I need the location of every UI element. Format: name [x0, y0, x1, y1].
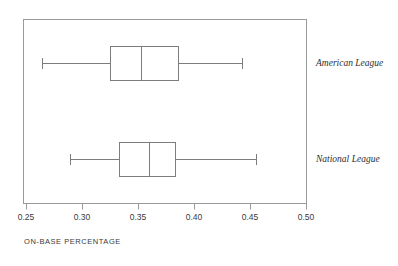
tick-label-1: 0.30 [74, 212, 91, 222]
boxplot-national-league [71, 143, 257, 177]
boxplot-chart: 0.25 0.30 0.35 0.40 0.45 0.50 ON-BASE PE… [0, 0, 398, 266]
category-label-american-league: American League [315, 58, 383, 68]
chart-canvas: 0.25 0.30 0.35 0.40 0.45 0.50 ON-BASE PE… [0, 0, 398, 266]
box-iqr [111, 47, 179, 81]
x-axis-tick-labels: 0.25 0.30 0.35 0.40 0.45 0.50 [18, 212, 315, 222]
tick-label-2: 0.35 [130, 212, 147, 222]
tick-label-0: 0.25 [18, 212, 35, 222]
x-axis-ticks [27, 204, 307, 210]
box-iqr [120, 143, 176, 177]
x-axis-title: ON-BASE PERCENTAGE [24, 237, 121, 246]
tick-label-3: 0.40 [186, 212, 203, 222]
boxplot-american-league [43, 47, 243, 81]
tick-label-4: 0.45 [242, 212, 259, 222]
category-label-national-league: National League [315, 154, 380, 164]
tick-label-5: 0.50 [298, 212, 315, 222]
